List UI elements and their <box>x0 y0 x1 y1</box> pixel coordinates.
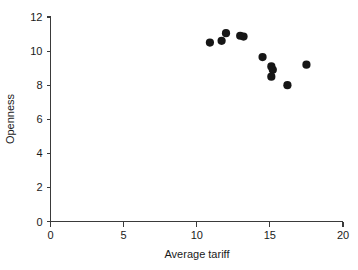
y-tick-label: 0 <box>36 216 42 228</box>
y-tick-label: 2 <box>36 181 42 193</box>
chart-canvas: 024681012 Openness 05101520 Average tari… <box>0 0 358 270</box>
y-tick-label: 8 <box>36 79 42 91</box>
x-tick-label: 20 <box>337 229 349 241</box>
x-tick-label: 15 <box>264 229 276 241</box>
x-tick-label: 10 <box>191 229 203 241</box>
data-point <box>222 29 230 37</box>
data-point <box>218 37 226 45</box>
data-point <box>267 73 275 81</box>
data-point <box>206 38 214 46</box>
y-tick-label: 6 <box>36 113 42 125</box>
y-tick-label: 10 <box>30 45 42 57</box>
data-point <box>283 81 291 89</box>
data-point <box>302 61 310 69</box>
x-axis-title: Average tariff <box>164 248 230 260</box>
y-tick-label: 4 <box>36 147 42 159</box>
scatter-chart: 024681012 Openness 05101520 Average tari… <box>0 0 358 270</box>
x-tick-label: 5 <box>121 229 127 241</box>
chart-background <box>0 0 358 270</box>
data-point <box>269 66 277 74</box>
x-tick-label: 0 <box>47 229 53 241</box>
y-axis-title: Openness <box>4 93 16 144</box>
y-tick-label: 12 <box>30 11 42 23</box>
data-point <box>258 53 266 61</box>
data-point <box>239 33 247 41</box>
